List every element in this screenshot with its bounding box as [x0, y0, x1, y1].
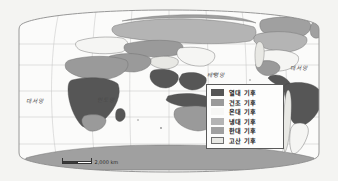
- legend-label-polar: 한대 기후: [229, 127, 256, 134]
- scale-bar-graphic: [62, 158, 92, 164]
- region-madagascar-tropical: [116, 108, 126, 121]
- legend-label-subarctic: 냉대 기후: [229, 118, 256, 125]
- scale-bar-label: 2,000 km: [95, 159, 119, 165]
- climate-legend: 열대 기후 건조 기후 온대 기후 냉대 기후 한대 기후 고산 기후: [206, 84, 284, 149]
- scale-segment-1: [62, 161, 77, 164]
- legend-label-arid: 건조 기후: [229, 99, 256, 106]
- region-europe-temperate: [76, 37, 128, 54]
- ocean-label-pacific: 태평양: [207, 71, 224, 79]
- scale-bar: 2,000 km: [62, 158, 118, 164]
- legend-swatch-tropical: [211, 89, 224, 96]
- legend-swatch-highland: [211, 137, 224, 144]
- ocean-label-atlantic-east: 대서양: [290, 64, 307, 72]
- legend-item-polar[interactable]: 한대 기후: [211, 126, 280, 135]
- legend-swatch-arid: [211, 99, 224, 106]
- legend-item-subarctic[interactable]: 냉대 기후: [211, 117, 280, 126]
- ocean-label-atlantic-west: 대서양: [26, 97, 43, 105]
- legend-label-temperate: 온대 기후: [229, 108, 256, 115]
- legend-label-tropical: 열대 기후: [229, 89, 256, 96]
- scale-tick-end: [91, 158, 92, 164]
- scale-segment-2: [77, 161, 92, 164]
- legend-swatch-temperate: [211, 108, 224, 115]
- climate-map-figure: 대서양 인도양 태평양 대서양 열대 기후 건조 기후 온대 기후 냉대 기후 …: [0, 0, 338, 181]
- ocean-label-indian: 인도양: [97, 96, 114, 104]
- legend-item-arid[interactable]: 건조 기후: [211, 98, 280, 107]
- legend-swatch-subarctic: [211, 118, 224, 125]
- legend-item-highland[interactable]: 고산 기후: [211, 136, 280, 145]
- legend-swatch-polar: [211, 127, 224, 134]
- legend-label-highland: 고산 기후: [229, 137, 256, 144]
- legend-item-tropical[interactable]: 열대 기후: [211, 88, 280, 97]
- legend-item-temperate[interactable]: 온대 기후: [211, 107, 280, 116]
